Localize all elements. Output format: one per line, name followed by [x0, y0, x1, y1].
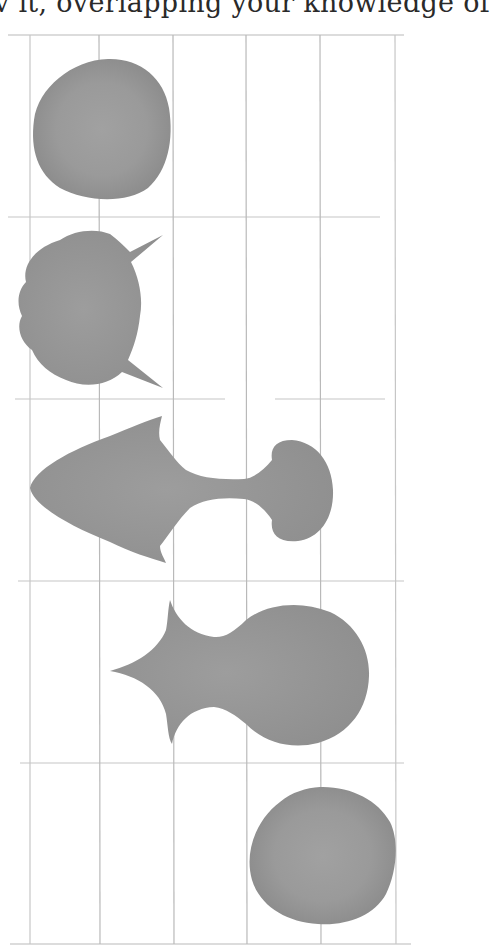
grid-col-6 — [395, 35, 396, 944]
shape-row-3-arrow-neck-mushroom — [30, 416, 333, 563]
shape-row-4-star-circle — [110, 600, 369, 746]
shape-row-2-lobed-spiked-blob — [19, 231, 163, 388]
shape-row-5-round-blob — [250, 787, 396, 924]
shape-row-1-round-blob — [33, 59, 171, 199]
